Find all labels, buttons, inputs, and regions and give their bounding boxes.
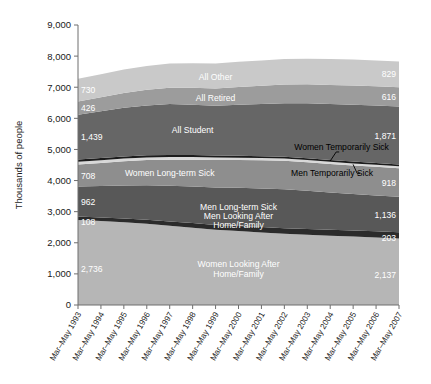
y-tick-label: 0 (66, 299, 71, 310)
start-value-label: 730 (81, 85, 96, 95)
y-tick-label: 3,000 (47, 206, 71, 217)
y-tick-label: 9,000 (47, 19, 71, 30)
start-value-label: 708 (81, 171, 96, 181)
y-tick-label: 2,000 (47, 237, 71, 248)
start-value-label: 108 (81, 217, 96, 227)
start-value-label: 2,736 (81, 264, 103, 274)
stacked-area-chart: 01,0002,0003,0004,0005,0006,0007,0008,00… (0, 0, 431, 384)
band-label-line1: Women Looking After (197, 259, 279, 269)
end-value-label: 616 (382, 92, 397, 102)
y-tick-label: 4,000 (47, 175, 71, 186)
end-value-label: 918 (382, 178, 397, 188)
end-value-label: 1,871 (374, 131, 396, 141)
y-tick-label: 6,000 (47, 113, 71, 124)
y-tick-label: 7,000 (47, 82, 71, 93)
start-value-label: 962 (81, 197, 96, 207)
band-label: All Retired (196, 93, 236, 103)
end-value-label: 203 (382, 233, 397, 243)
start-value-label: 1,439 (81, 132, 103, 142)
y-tick-label: 5,000 (47, 144, 71, 155)
end-value-label: 2,137 (374, 270, 396, 280)
band-label-line2: Home/Family (213, 269, 264, 279)
band-label-line1: Men Looking After (204, 211, 273, 221)
y-tick-label: 8,000 (47, 51, 71, 62)
band-label: All Other (199, 72, 233, 82)
start-value-label: 426 (81, 103, 96, 113)
series-band-all-student (78, 103, 399, 164)
end-value-label: 1,136 (374, 210, 396, 220)
chart-canvas: 01,0002,0003,0004,0005,0006,0007,0008,00… (0, 0, 431, 384)
y-tick-label: 1,000 (47, 268, 71, 279)
women-temporarily-sick-callout-label: Women Temporarily Sick (294, 142, 389, 152)
end-value-label: 829 (382, 69, 397, 79)
band-label: All Student (172, 125, 214, 135)
band-label: Women Long-term Sick (125, 168, 215, 178)
men-temporarily-sick-callout-label: Men Temporarily Sick (291, 168, 374, 178)
band-label: Men Long-term Sick (200, 202, 278, 212)
y-axis-title: Thousands of people (13, 121, 24, 210)
band-label-line2: Home/Family (213, 220, 264, 230)
